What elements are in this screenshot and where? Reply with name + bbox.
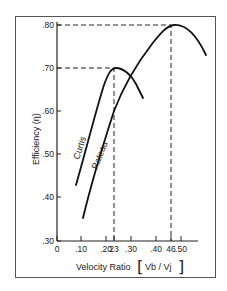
x-axis-title: Velocity Ratio (76, 262, 131, 272)
x-ticks: 0.10.2023.30.4046.50 (55, 236, 188, 254)
y-tick-label: .80 (42, 20, 54, 30)
x-tick-label: 0 (55, 244, 60, 254)
x-tick-label: .10 (75, 244, 87, 254)
left-bracket: [ (137, 257, 143, 276)
rateau-curve (83, 25, 206, 218)
y-axis-title: Efficiency (η) (31, 113, 41, 165)
x-tick-label: 23 (109, 244, 119, 254)
right-bracket: ] (178, 257, 184, 276)
x-tick-label: .40 (150, 244, 162, 254)
peak-guides (57, 25, 171, 241)
x-axis-formula: Vb / Vj (145, 262, 172, 272)
x-tick-label: .30 (125, 244, 137, 254)
y-ticks: .80.70.60.50.40.30 (42, 20, 61, 246)
efficiency-chart: .80.70.60.50.40.30 0.10.2023.30.4046.50 … (0, 0, 227, 291)
x-tick-label: .50 (175, 244, 187, 254)
y-tick-label: .70 (42, 63, 54, 73)
y-tick-label: .40 (42, 192, 54, 202)
rateau-label: Rateau (90, 140, 110, 171)
y-tick-label: .50 (42, 149, 54, 159)
y-tick-label: .60 (42, 106, 54, 116)
y-tick-label: .30 (42, 236, 54, 246)
curtis-peak-guide (57, 68, 114, 241)
